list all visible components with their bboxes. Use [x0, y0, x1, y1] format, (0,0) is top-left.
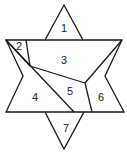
region-6-edge	[85, 83, 92, 112]
region-label-7: 7	[63, 122, 69, 134]
region-label-2: 2	[16, 40, 22, 52]
region-label-4: 4	[32, 91, 38, 103]
region-label-6: 6	[98, 91, 104, 103]
right-diagonal	[85, 40, 122, 83]
region-label-5: 5	[67, 85, 73, 97]
region-label-1: 1	[61, 22, 67, 34]
star-diagram: 1 2 3 4 5 6 7	[0, 0, 127, 159]
region-label-3: 3	[61, 54, 67, 66]
